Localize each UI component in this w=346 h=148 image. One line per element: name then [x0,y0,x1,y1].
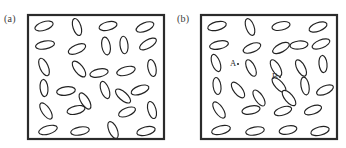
point-marker-b [279,76,281,78]
point-label-b: B [272,71,278,81]
panel-b: (b) AB [173,0,346,148]
point-marker-a [237,63,239,65]
panel-b-canvas: AB [173,0,346,148]
panel-a-canvas [0,0,173,148]
panel-a: (a) [0,0,173,148]
figure-root: (a) (b) AB [0,0,346,148]
panel-b-frame [201,15,337,139]
point-label-a: A [230,58,237,68]
